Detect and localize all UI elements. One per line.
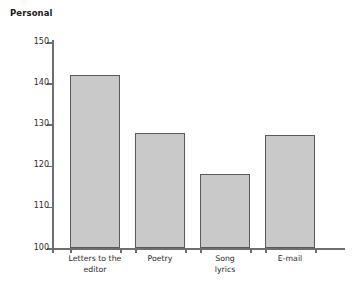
x-axis-tick bbox=[315, 248, 317, 253]
bar bbox=[135, 133, 185, 248]
x-axis-tick bbox=[135, 248, 137, 253]
x-axis-tick bbox=[52, 248, 54, 253]
x-axis-category-label: Song lyrics bbox=[188, 254, 262, 275]
y-axis-tick-label: 140 bbox=[34, 78, 49, 87]
x-axis-tick bbox=[250, 248, 252, 253]
y-axis-tick-label: 100 bbox=[34, 243, 49, 252]
y-axis-tick-label: 130 bbox=[34, 119, 49, 128]
bar bbox=[200, 174, 250, 248]
plot-area: 100110120130140150 bbox=[52, 42, 345, 248]
bar-chart: Personal 100110120130140150 Letters to t… bbox=[0, 0, 358, 286]
x-axis-line bbox=[52, 248, 345, 250]
y-axis-tick-label: 110 bbox=[34, 201, 49, 210]
x-axis-tick bbox=[265, 248, 267, 253]
bar bbox=[70, 75, 120, 248]
y-axis-tick-label: 120 bbox=[34, 160, 49, 169]
x-axis-tick bbox=[200, 248, 202, 253]
x-axis-category-label: Poetry bbox=[123, 254, 197, 265]
y-axis-tick-label: 150 bbox=[34, 37, 49, 46]
chart-title: Personal bbox=[10, 8, 53, 18]
x-axis-category-label: Letters to the editor bbox=[58, 254, 132, 275]
bar bbox=[265, 135, 315, 248]
x-axis-category-label: E-mail bbox=[253, 254, 327, 265]
x-axis-tick bbox=[185, 248, 187, 253]
x-axis-tick bbox=[70, 248, 72, 253]
x-axis-tick bbox=[120, 248, 122, 253]
